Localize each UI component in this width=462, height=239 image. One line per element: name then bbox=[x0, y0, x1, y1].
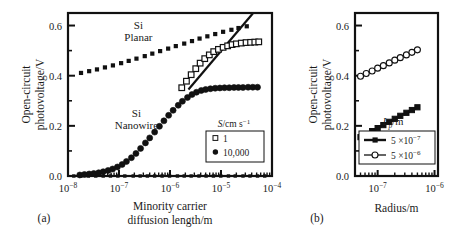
si-planar-marker bbox=[87, 69, 91, 73]
y-tick-label: 0.2 bbox=[336, 121, 349, 132]
s1-marker bbox=[256, 39, 262, 45]
si-planar-marker bbox=[166, 47, 170, 51]
s10000-marker bbox=[138, 145, 144, 151]
baseline-marker bbox=[234, 174, 237, 177]
y-tick-label: 0.6 bbox=[336, 21, 349, 32]
baseline-marker bbox=[183, 174, 186, 177]
baseline-marker bbox=[138, 174, 141, 177]
si-planar-marker bbox=[119, 61, 123, 65]
baseline-marker bbox=[176, 174, 179, 177]
annotation-line2: Planar bbox=[124, 31, 152, 43]
si-planar-marker bbox=[205, 34, 209, 38]
baseline-marker bbox=[109, 174, 112, 177]
si-planar-marker bbox=[79, 71, 83, 75]
baseline-marker bbox=[168, 174, 171, 177]
si-planar-marker bbox=[103, 65, 107, 69]
y-tick-label: 0.2 bbox=[49, 121, 62, 132]
si-planar-marker bbox=[245, 24, 249, 28]
y-tick-label: 0.0 bbox=[49, 171, 62, 182]
x-tick-label: 10−6 bbox=[161, 181, 180, 194]
s10000-marker bbox=[255, 84, 261, 90]
legend-title: S/cm s−1 bbox=[218, 118, 251, 130]
chart-panel-b: 0.00.20.40.610−710−6Lp/m5 ×10−75 ×10−6Ra… bbox=[295, 0, 462, 239]
legend-marker-open-square bbox=[213, 136, 218, 141]
panel-caption-b: (b) bbox=[310, 212, 324, 225]
baseline-marker bbox=[116, 174, 119, 177]
baseline-marker bbox=[263, 174, 266, 177]
open-circle-marker bbox=[358, 73, 364, 79]
annotation-line1: Si bbox=[134, 19, 143, 31]
baseline-marker bbox=[123, 174, 126, 177]
x-axis-title-line1: Minority carrier bbox=[133, 200, 207, 213]
open-circle-marker bbox=[414, 47, 420, 53]
si-planar-marker bbox=[197, 36, 201, 40]
legend-marker-open-circle bbox=[372, 152, 378, 158]
baseline-marker bbox=[241, 174, 244, 177]
si-planar-marker bbox=[190, 39, 194, 43]
y-tick-label: 0.4 bbox=[336, 71, 350, 82]
y-tick-label: 0.0 bbox=[336, 171, 349, 182]
baseline-marker bbox=[227, 174, 230, 177]
s1-marker bbox=[184, 78, 190, 84]
panel-caption-a: (a) bbox=[38, 212, 51, 225]
s10000-marker bbox=[133, 150, 139, 156]
y-tick-label: 0.4 bbox=[49, 71, 63, 82]
open-circle-marker bbox=[380, 63, 386, 69]
si-planar-marker bbox=[127, 59, 131, 63]
open-circle-marker bbox=[363, 70, 369, 76]
baseline-marker bbox=[189, 174, 192, 177]
si-planar-marker bbox=[150, 52, 154, 56]
baseline-marker bbox=[132, 174, 135, 177]
baseline-marker bbox=[153, 174, 156, 177]
s1-marker bbox=[193, 66, 199, 72]
x-tick-label: 10−8 bbox=[59, 181, 78, 194]
baseline-marker bbox=[256, 174, 259, 177]
filled-square-marker bbox=[375, 126, 380, 131]
x-axis-title: Radius/m bbox=[374, 202, 418, 214]
s1-marker bbox=[179, 85, 185, 91]
legend-marker-filled-square bbox=[373, 137, 378, 142]
s10000-marker bbox=[161, 118, 167, 124]
si-planar-marker bbox=[158, 49, 162, 53]
s10000-marker bbox=[142, 140, 148, 146]
si-planar-marker bbox=[174, 44, 178, 48]
x-tick-label: 10−7 bbox=[368, 181, 387, 194]
baseline-marker bbox=[160, 174, 163, 177]
s1-marker bbox=[188, 72, 194, 78]
legend-label-1: 1 bbox=[223, 134, 228, 144]
x-tick-label: 10−7 bbox=[110, 181, 129, 194]
x-tick-label: 10−6 bbox=[425, 181, 444, 194]
si-planar-marker bbox=[143, 54, 147, 58]
baseline-marker bbox=[197, 174, 200, 177]
si-planar-marker bbox=[182, 41, 186, 45]
x-tick-label: 10−4 bbox=[263, 181, 282, 194]
si-planar-marker bbox=[111, 63, 115, 67]
panel-b-plot: 0.00.20.40.610−710−6Lp/m5 ×10−75 ×10−6Ra… bbox=[295, 0, 462, 239]
s10000-marker bbox=[179, 98, 185, 104]
si-planar-marker bbox=[229, 28, 233, 32]
s10000-marker bbox=[166, 112, 172, 118]
filled-square-marker bbox=[415, 105, 420, 110]
x-tick-label: 10−5 bbox=[212, 181, 231, 194]
y-tick-label: 0.6 bbox=[49, 21, 62, 32]
legend-marker-filled-circle bbox=[213, 149, 218, 154]
panel-a-plot: 0.00.20.40.610−810−710−610−510−4SiPlanar… bbox=[0, 0, 300, 239]
figure-container: 0.00.20.40.610−810−710−610−510−4SiPlanar… bbox=[0, 0, 462, 239]
baseline-marker bbox=[219, 174, 222, 177]
si-planar-marker bbox=[95, 67, 99, 71]
panel-b-content: 0.00.20.40.610−710−6Lp/m5 ×10−75 ×10−6Ra… bbox=[307, 13, 444, 225]
baseline-marker bbox=[146, 174, 149, 177]
open-circle-marker bbox=[397, 55, 403, 61]
y-axis-title-line1: Open-circuit bbox=[307, 65, 320, 124]
legend-label-2: 10,000 bbox=[223, 148, 249, 158]
si-planar-marker bbox=[213, 32, 217, 36]
y-axis-title-line2: photovoltage/V bbox=[34, 58, 47, 130]
y-axis-title-line2: photovoltage/V bbox=[321, 58, 334, 130]
annotation-line1: Si bbox=[132, 107, 141, 119]
filled-square-marker bbox=[404, 110, 409, 115]
open-circle-marker bbox=[375, 65, 381, 71]
y-axis-title-line1: Open-circuit bbox=[20, 65, 33, 124]
baseline-marker bbox=[248, 174, 251, 177]
x-axis-title-line2: diffusion length/m bbox=[127, 214, 212, 227]
baseline-marker bbox=[72, 174, 75, 177]
